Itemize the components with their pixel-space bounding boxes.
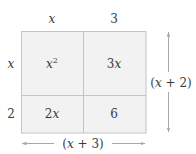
area-model-diagram: x 3 x 2 x2 3x 2x 6 (x + 3) (x + 2) bbox=[0, 0, 196, 154]
column-header-3: 3 bbox=[110, 12, 118, 26]
row-header-x: x bbox=[8, 57, 15, 71]
cell-label-2x: 2x bbox=[45, 107, 60, 121]
cell-label-6: 6 bbox=[110, 107, 118, 121]
width-label: (x + 3) bbox=[62, 137, 103, 151]
area-grid bbox=[21, 31, 146, 133]
width-dimension-arrow: (x + 3) bbox=[22, 137, 145, 151]
column-header-x: x bbox=[49, 12, 56, 26]
row-header-2: 2 bbox=[7, 107, 15, 121]
height-label: (x + 2) bbox=[150, 76, 191, 90]
height-dimension-arrow: (x + 2) bbox=[150, 32, 191, 132]
cell-label-3x: 3x bbox=[107, 57, 122, 71]
